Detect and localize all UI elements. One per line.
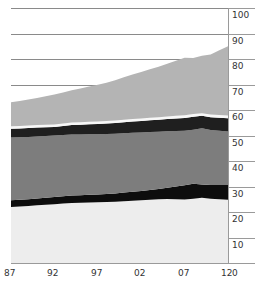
plot-area bbox=[11, 8, 228, 263]
x-tick-label-97: 97 bbox=[91, 268, 102, 278]
x-tick-label-87: 87 bbox=[4, 268, 15, 278]
y-tick-label-70: 70 bbox=[232, 87, 243, 97]
y-tick-mark-30 bbox=[229, 187, 255, 188]
y-tick-mark-100 bbox=[229, 8, 255, 9]
y-tick-label-100: 100 bbox=[232, 10, 249, 20]
y-tick-label-80: 80 bbox=[232, 61, 243, 71]
y-tick-mark-60 bbox=[229, 110, 255, 111]
y-tick-mark-20 bbox=[229, 212, 255, 213]
area-band-1-bottom bbox=[11, 198, 228, 263]
x-tick-label-02: 02 bbox=[134, 268, 145, 278]
y-tick-mark-80 bbox=[229, 59, 255, 60]
y-tick-label-0: 0 bbox=[232, 268, 238, 278]
y-tick-mark-10 bbox=[229, 238, 255, 239]
y-tick-label-20: 20 bbox=[232, 214, 243, 224]
y-tick-mark-50 bbox=[229, 136, 255, 137]
y-tick-label-40: 40 bbox=[232, 163, 243, 173]
area-series-group bbox=[11, 8, 228, 263]
y-tick-mark-70 bbox=[229, 85, 255, 86]
y-tick-label-90: 90 bbox=[232, 36, 243, 46]
y-tick-label-60: 60 bbox=[232, 112, 243, 122]
x-axis-line bbox=[11, 263, 255, 264]
y-tick-mark-90 bbox=[229, 34, 255, 35]
x-tick-label-12: 12 bbox=[221, 268, 232, 278]
y-tick-label-10: 10 bbox=[232, 240, 243, 250]
stacked-area-chart: 1020304050607080901008792970207120 bbox=[0, 0, 263, 287]
x-tick-label-92: 92 bbox=[47, 268, 58, 278]
y-tick-label-50: 50 bbox=[232, 138, 243, 148]
y-tick-mark-40 bbox=[229, 161, 255, 162]
y-tick-label-30: 30 bbox=[232, 189, 243, 199]
x-tick-label-07: 07 bbox=[178, 268, 189, 278]
